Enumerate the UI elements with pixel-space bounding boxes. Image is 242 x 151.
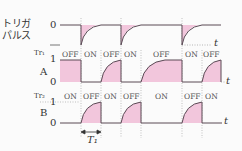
tr2-level-one: 1 (50, 97, 56, 107)
tr1-state: OFF (62, 51, 79, 59)
tr1-state: ON (84, 51, 97, 59)
tr2-state: ON (104, 93, 117, 101)
tr1-output-label: A (40, 67, 47, 77)
tr2-state: ON (155, 93, 168, 101)
tr2-axis-t: t (224, 116, 228, 126)
tr1-state: OFF (103, 51, 120, 59)
waveform-a (60, 60, 226, 82)
tr2-state: ON (205, 93, 218, 101)
tr1-level-one: 1 (50, 54, 56, 64)
trigger-axis-t: t (214, 38, 218, 48)
tr2-state: OFF (123, 93, 140, 101)
trigger-waveform (60, 25, 221, 45)
trigger-label-line2: パルス (2, 31, 31, 41)
timing-diagram (0, 0, 242, 151)
tr1-state: ON (124, 51, 137, 59)
tr2-state: OFF (184, 93, 201, 101)
tr2-name: Tr₂ (34, 93, 45, 100)
trigger-label-line1: トリガ (2, 19, 31, 29)
tr1-level-zero: 0 (50, 77, 56, 87)
trigger-level-zero: 0 (50, 20, 56, 30)
tr1-state: OFF (153, 51, 170, 59)
tr1-name: Tr₁ (34, 50, 45, 57)
period-label: T₁ (87, 135, 98, 145)
tr1-state: OFF (203, 51, 220, 59)
tr2-state: OFF (83, 93, 100, 101)
tr2-level-zero: 0 (50, 118, 56, 128)
tr1-axis-t: t (226, 76, 230, 86)
tr2-state: ON (64, 93, 77, 101)
tr2-output-label: B (40, 108, 47, 118)
tr1-state: ON (185, 51, 198, 59)
